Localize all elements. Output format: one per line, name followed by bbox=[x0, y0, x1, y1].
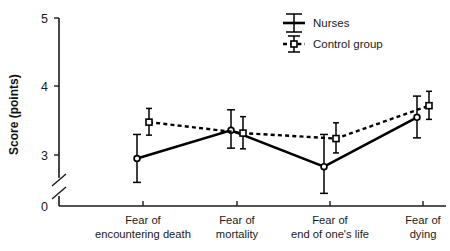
legend-label-control-group: Control group bbox=[313, 38, 383, 50]
x-label-2-line2: end of one's life bbox=[291, 228, 369, 240]
y-axis-title: Score (points) bbox=[7, 74, 21, 155]
legend-label-nurses: Nurses bbox=[313, 17, 350, 29]
x-label-1-line1: Fear of bbox=[219, 214, 255, 226]
x-label-3-line2: dying bbox=[410, 228, 437, 240]
legend: Nurses Control group bbox=[283, 14, 383, 52]
data-point-nurses-0 bbox=[134, 156, 140, 162]
x-label-0-line1: Fear of bbox=[125, 214, 161, 226]
legend-marker-nurses bbox=[283, 14, 305, 32]
y-tick-label-3: 3 bbox=[41, 149, 48, 163]
legend-marker-control-group bbox=[283, 36, 305, 52]
x-label-3-line1: Fear of bbox=[405, 214, 441, 226]
data-point-control-group-1 bbox=[240, 130, 246, 136]
y-tick-label-5: 5 bbox=[41, 12, 48, 26]
series-layer bbox=[133, 91, 432, 193]
x-label-2-line1: Fear of bbox=[312, 214, 348, 226]
y-tick-label-4: 4 bbox=[41, 80, 48, 94]
data-point-nurses-3 bbox=[414, 114, 420, 120]
figure-container: Score (points) 5 4 3 0 Fear of encounter… bbox=[0, 0, 450, 251]
data-point-control-group-3 bbox=[426, 103, 432, 109]
y-tick-label-0: 0 bbox=[41, 200, 48, 214]
data-point-nurses-2 bbox=[321, 164, 327, 170]
data-point-control-group-2 bbox=[333, 136, 339, 142]
data-point-control-group-0 bbox=[146, 119, 152, 125]
line-chart: Score (points) 5 4 3 0 Fear of encounter… bbox=[0, 0, 450, 251]
x-label-0-line2: encountering death bbox=[95, 228, 191, 240]
x-label-1-line2: mortality bbox=[216, 228, 259, 240]
